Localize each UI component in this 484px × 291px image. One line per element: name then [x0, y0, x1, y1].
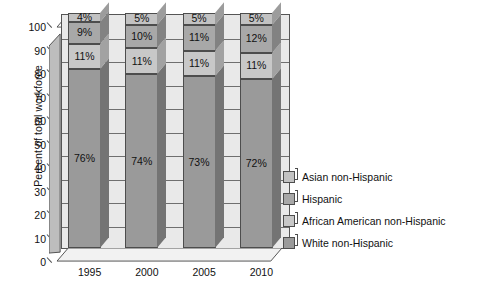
bar-segment[interactable]: 5%: [240, 13, 273, 25]
bar-segment-label: 10%: [131, 31, 152, 42]
legend-color-swatch: [283, 215, 295, 227]
bar-side-face: [100, 2, 109, 248]
legend-color-swatch: [283, 171, 295, 183]
x-axis-tick-label: 2000: [124, 266, 170, 278]
bar-front-face: 76%11%9%4%: [68, 13, 101, 248]
bar-segment[interactable]: 11%: [183, 51, 216, 77]
bar-front-face: 74%11%10%5%: [125, 13, 158, 248]
y-axis-tick-label: 70: [20, 93, 46, 103]
bar-group[interactable]: 72%11%12%5%: [240, 13, 281, 248]
bar-front-face: 72%11%12%5%: [240, 13, 273, 248]
plot-floor: [49, 248, 290, 262]
legend-item[interactable]: African American non-Hispanic: [283, 214, 446, 228]
y-axis-tick-labels: 0102030405060708090100: [16, 0, 46, 291]
bar-segment-label: 76%: [74, 153, 95, 164]
y-axis-tick-label: 80: [20, 69, 46, 79]
legend-item-label: Hispanic: [302, 193, 342, 205]
bar-segment-side: [157, 63, 166, 248]
y-axis-tick-label: 90: [20, 46, 46, 56]
bar-front-face: 73%11%11%5%: [183, 13, 216, 248]
bar-segment[interactable]: 5%: [125, 13, 158, 25]
bar-segment[interactable]: 11%: [68, 44, 101, 70]
bar-segment-label: 11%: [246, 60, 266, 71]
bar-segment-label: 11%: [189, 58, 209, 69]
bar-segment[interactable]: 72%: [240, 79, 273, 248]
bar-group[interactable]: 74%11%10%5%: [125, 13, 166, 248]
legend-item-label: African American non-Hispanic: [302, 215, 446, 227]
bar-segment-side: [100, 59, 109, 248]
y-axis-tick-label: 60: [20, 116, 46, 126]
x-axis-tick-labels: 1995200020052010: [49, 266, 299, 282]
bar-segment[interactable]: 4%: [68, 13, 101, 22]
bar-segment-label: 74%: [131, 156, 152, 167]
x-axis-tick-label: 2010: [238, 266, 284, 278]
bar-segment[interactable]: 11%: [125, 48, 158, 74]
bar-segment-label: 73%: [188, 157, 209, 168]
y-axis-tick-label: 40: [20, 163, 46, 173]
legend-item-label: White non-Hispanic: [302, 237, 393, 249]
bar-segment[interactable]: 12%: [240, 25, 273, 53]
bar-side-face: [157, 2, 166, 248]
bar-segment-label: 5%: [134, 13, 149, 24]
bar-segment[interactable]: 73%: [183, 76, 216, 248]
bar-segment[interactable]: 74%: [125, 74, 158, 248]
plot-area: 76%11%9%4%74%11%10%5%73%11%11%5%72%11%12…: [49, 14, 290, 262]
bar-segment[interactable]: 11%: [240, 53, 273, 79]
bar-segment-label: 11%: [132, 56, 152, 67]
bar-side-face: [272, 2, 281, 248]
legend-item[interactable]: White non-Hispanic: [283, 236, 393, 250]
bar-segment-label: 12%: [246, 33, 267, 44]
bar-group[interactable]: 73%11%11%5%: [183, 13, 224, 248]
bar-segment-label: 11%: [74, 51, 94, 62]
bar-segment[interactable]: 5%: [183, 13, 216, 25]
legend-item[interactable]: Asian non-Hispanic: [283, 170, 392, 184]
chart-legend: Asian non-HispanicHispanicAfrican Americ…: [283, 170, 483, 262]
plot-back-panel: 76%11%9%4%74%11%10%5%73%11%11%5%72%11%12…: [61, 14, 290, 249]
y-axis-tick-label: 10: [20, 234, 46, 244]
bar-segment[interactable]: 76%: [68, 69, 101, 248]
bar-segment-label: 72%: [246, 158, 267, 169]
bar-side-face: [215, 2, 224, 248]
bar-segment-label: 11%: [189, 32, 209, 43]
x-axis-tick-label: 2005: [181, 266, 227, 278]
legend-color-swatch: [283, 193, 295, 205]
y-axis-tick-label: 0: [20, 257, 46, 267]
bar-segment-label: 4%: [77, 12, 92, 23]
y-axis-tick-label: 50: [20, 140, 46, 150]
y-axis-tick-label: 30: [20, 187, 46, 197]
y-axis-tick-label: 100: [20, 22, 46, 32]
bar-segment[interactable]: 10%: [125, 25, 158, 49]
bar-segment-label: 5%: [191, 13, 206, 24]
legend-item[interactable]: Hispanic: [283, 192, 342, 206]
bar-group[interactable]: 76%11%9%4%: [68, 13, 109, 248]
bar-segment-side: [215, 66, 224, 248]
bar-segment-label: 5%: [249, 13, 264, 24]
legend-item-label: Asian non-Hispanic: [302, 171, 392, 183]
legend-color-swatch: [283, 237, 295, 249]
bar-segment[interactable]: 9%: [68, 22, 101, 43]
stacked-bar-chart: Percent of total workforce 0102030405060…: [0, 0, 484, 291]
bar-segment[interactable]: 11%: [183, 25, 216, 51]
bar-segment-side: [272, 68, 281, 248]
y-axis-tick-label: 20: [20, 210, 46, 220]
x-axis-tick-label: 1995: [67, 266, 113, 278]
bar-segment-label: 9%: [77, 27, 92, 38]
